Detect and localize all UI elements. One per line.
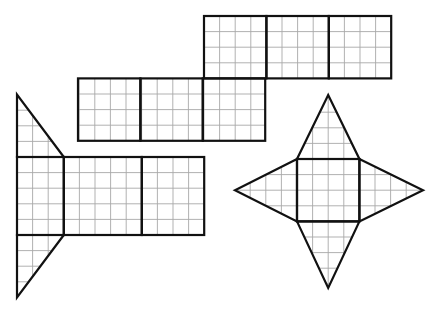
face-rect [64, 157, 142, 235]
nets-figure [0, 0, 436, 314]
face-rect [17, 157, 64, 235]
square-pyramid-net [235, 81, 423, 288]
grid-lines [235, 81, 423, 288]
